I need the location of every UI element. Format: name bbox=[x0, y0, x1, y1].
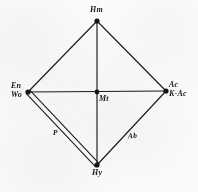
edge-enwo-hm bbox=[28, 21, 97, 92]
edge-hm-ac bbox=[97, 21, 166, 91]
vertex-label-k-ac: K-Ac bbox=[169, 89, 187, 98]
vertex-label-group-right: Ac K-Ac bbox=[169, 80, 187, 98]
node-dot-ac bbox=[163, 88, 168, 93]
edge-hy-enwo-double bbox=[26, 90, 99, 166]
vertex-label-en: En bbox=[11, 81, 21, 90]
node-dot-enwo bbox=[25, 89, 30, 94]
edge-label-ab: Ab bbox=[128, 131, 137, 140]
vertex-label-hm: Hm bbox=[90, 5, 103, 14]
phase-diagram-figure: Hm En Wo Ac K-Ac Hy Mt P Ab bbox=[0, 0, 198, 192]
vertex-label-hy: Hy bbox=[92, 168, 102, 177]
node-dot-hm bbox=[94, 18, 99, 23]
edge-hy-enwo-line-outer bbox=[26, 94, 95, 167]
edge-hy-enwo-line-inner bbox=[30, 90, 99, 163]
vertex-label-wo: Wo bbox=[11, 90, 22, 99]
vertex-label-group-left: En Wo bbox=[11, 81, 22, 99]
vertex-label-ac: Ac bbox=[169, 80, 178, 89]
center-label-mt: Mt bbox=[99, 94, 109, 103]
node-dot-hy bbox=[94, 162, 99, 167]
edge-label-p: P bbox=[53, 128, 58, 137]
